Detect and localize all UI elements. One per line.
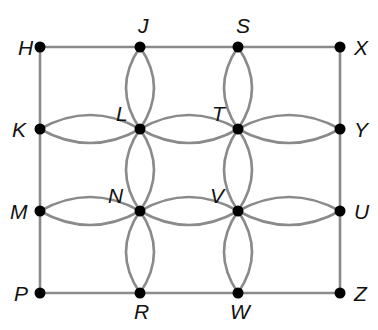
node-M xyxy=(35,206,46,217)
graph-diagram: HJSXKLTYMNVUPRWZ xyxy=(0,0,378,330)
node-label-P: P xyxy=(14,282,28,305)
node-U xyxy=(335,206,346,217)
edge-V-W-1 xyxy=(224,211,238,293)
node-label-M: M xyxy=(10,200,28,223)
edge-V-W-2 xyxy=(238,211,252,293)
edge-J-L-1 xyxy=(126,47,140,129)
edge-T-Y-2 xyxy=(238,115,340,129)
edge-T-Y-1 xyxy=(238,129,340,143)
node-label-X: X xyxy=(353,36,369,59)
labels-layer: HJSXKLTYMNVUPRWZ xyxy=(10,14,370,323)
node-V xyxy=(233,206,244,217)
edge-L-T-1 xyxy=(140,129,238,143)
node-R xyxy=(135,288,146,299)
node-P xyxy=(35,288,46,299)
edge-S-T-2 xyxy=(238,47,252,129)
edge-S-T-1 xyxy=(224,47,238,129)
node-label-Z: Z xyxy=(353,282,368,305)
node-X xyxy=(335,42,346,53)
edges-layer xyxy=(40,47,340,293)
edge-N-R-2 xyxy=(140,211,154,293)
node-H xyxy=(35,42,46,53)
node-Y xyxy=(335,124,346,135)
node-label-S: S xyxy=(236,14,250,37)
node-label-J: J xyxy=(137,14,149,37)
edge-J-L-2 xyxy=(140,47,154,129)
node-N xyxy=(135,206,146,217)
node-label-Y: Y xyxy=(354,118,370,141)
edge-L-N-2 xyxy=(140,129,154,211)
edge-T-V-2 xyxy=(238,129,252,211)
node-W xyxy=(233,288,244,299)
edge-N-V-1 xyxy=(140,211,238,225)
node-label-L: L xyxy=(116,102,128,125)
edge-M-N-1 xyxy=(40,211,140,225)
edge-K-L-1 xyxy=(40,129,140,143)
node-label-V: V xyxy=(210,184,226,207)
node-label-U: U xyxy=(354,200,370,223)
node-S xyxy=(233,42,244,53)
node-T xyxy=(233,124,244,135)
edge-L-N-1 xyxy=(126,129,140,211)
node-label-K: K xyxy=(12,118,27,141)
node-label-R: R xyxy=(134,300,149,323)
edge-N-R-1 xyxy=(126,211,140,293)
edge-M-N-2 xyxy=(40,197,140,211)
node-label-N: N xyxy=(108,184,124,207)
node-label-W: W xyxy=(230,300,252,323)
edge-V-U-2 xyxy=(238,197,340,211)
nodes-layer xyxy=(35,42,346,299)
node-label-H: H xyxy=(18,36,34,59)
node-J xyxy=(135,42,146,53)
node-L xyxy=(135,124,146,135)
node-label-T: T xyxy=(212,102,227,125)
edge-T-V-1 xyxy=(224,129,238,211)
node-Z xyxy=(335,288,346,299)
node-K xyxy=(35,124,46,135)
edge-V-U-1 xyxy=(238,211,340,225)
